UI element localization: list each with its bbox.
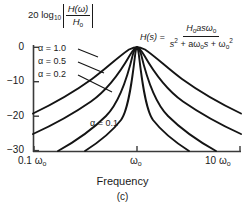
transfer-function-fraction: Hoasωo s2 + aωos + ωo2 (167, 24, 236, 51)
magnitude-ratio: H(ω) Ho (66, 4, 91, 29)
y-axis-title: 20 log10 H(ω) Ho (28, 4, 93, 28)
transfer-function-annotation: H(s) = Hoasωo s2 + aωos + ωo2 (140, 24, 236, 51)
y-axis-title-lead-sub: 10 (54, 14, 61, 21)
curve-label-alpha-0.5: α = 0.5 (38, 57, 66, 66)
leader-alpha-1.0 (78, 49, 98, 57)
y-axis-denominator: Ho (71, 16, 86, 29)
y-tick-label-0: 0 (2, 42, 24, 52)
transfer-function-lhs: H(s) = (140, 33, 165, 42)
curve-label-alpha-0.1: α = 0.1 (90, 119, 118, 128)
transfer-function-denominator: s2 + aωos + ωo2 (167, 37, 236, 51)
x-tick-label-w0: ωo (130, 156, 142, 167)
x-tick-label-10w0: 10 ωo (205, 156, 231, 167)
curve-label-alpha-0.2: α = 0.2 (38, 70, 66, 79)
curve-alpha-0.2 (58, 47, 216, 151)
y-axis-numerator: H(ω) (66, 4, 91, 16)
magnitude-bars: H(ω) Ho (63, 4, 94, 28)
curve-alpha-0.1 (85, 47, 189, 151)
leader-alpha-0.5 (78, 62, 104, 73)
y-tick-label-m30: −30 (2, 145, 24, 155)
x-tick-label-0.1w0: 0.1 ωo (18, 156, 46, 167)
y-tick-label-m20: −20 (2, 111, 24, 121)
transfer-function-numerator: Hoasωo (183, 24, 219, 37)
bode-magnitude-figure: 20 log10 H(ω) Ho H(s) = Hoasωo s2 + aωos… (0, 0, 245, 204)
panel-caption: (c) (0, 192, 245, 202)
x-axis-title: Frequency (0, 176, 245, 187)
y-axis-title-lead: 20 log (28, 9, 54, 20)
y-tick-label-m10: −10 (2, 76, 24, 86)
curve-label-alpha-1.0: α = 1.0 (38, 44, 66, 53)
